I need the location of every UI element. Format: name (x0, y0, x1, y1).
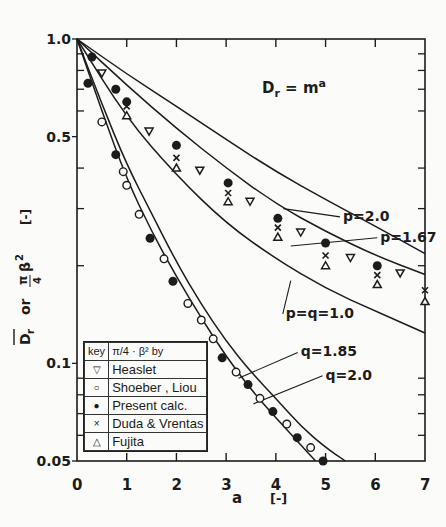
svg-text:q=1.85: q=1.85 (301, 343, 357, 359)
svg-text:D: D (17, 333, 33, 345)
legend: key π/4 · β² by ▽Heaslet ○Shoeber , Liou… (83, 341, 208, 452)
svg-text:0: 0 (72, 476, 82, 494)
chart-canvas: 012345671.00.50.10.05 p=2.0p=1.67p=q=1.0… (0, 0, 446, 527)
svg-text:β: β (17, 262, 33, 272)
svg-text:3: 3 (221, 476, 231, 494)
legend-header-title: π/4 · β² by (109, 343, 207, 361)
svg-text:p=2.0: p=2.0 (343, 208, 390, 224)
svg-text:p=1.67: p=1.67 (380, 229, 436, 245)
svg-text:π: π (16, 276, 30, 286)
circle-open-icon: ○ (85, 379, 109, 397)
equation-annotation: Dr = ma (262, 77, 326, 100)
circle-filled-icon: ● (85, 397, 109, 415)
svg-text:4: 4 (32, 277, 43, 284)
x-axis-unit: [-] (270, 491, 287, 506)
x-axis-label: a (232, 489, 242, 507)
svg-text:2: 2 (171, 476, 181, 494)
svg-text:6: 6 (370, 476, 380, 494)
curve-p=1.67 (77, 39, 425, 274)
legend-header-key: key (85, 343, 109, 361)
cross-icon: × (85, 415, 109, 433)
legend-label: Shoeber , Liou (109, 379, 207, 397)
svg-text:7: 7 (420, 476, 430, 494)
legend-label: Heaslet (109, 361, 207, 379)
legend-label: Duda & Vrentas (109, 415, 207, 433)
svg-text:p=q=1.0: p=q=1.0 (286, 305, 355, 321)
svg-text:2: 2 (14, 254, 25, 261)
svg-text:0.5: 0.5 (46, 129, 71, 145)
svg-text:0.1: 0.1 (46, 355, 71, 371)
legend-label: Present calc. (109, 397, 207, 415)
svg-text:q=2.0: q=2.0 (326, 367, 373, 383)
svg-text:[-]: [-] (19, 209, 33, 225)
svg-text:0.05: 0.05 (36, 453, 71, 469)
triangle-up-icon: △ (85, 433, 109, 451)
triangle-down-icon: ▽ (85, 361, 109, 379)
y-axis-label: Dr or π 4 β2 [-] (4, 150, 44, 350)
svg-text:5: 5 (321, 476, 331, 494)
svg-text:r: r (25, 329, 36, 334)
svg-text:or: or (17, 298, 33, 315)
svg-text:1: 1 (122, 476, 132, 494)
svg-text:1.0: 1.0 (46, 31, 71, 47)
legend-label: Fujita (109, 433, 207, 451)
